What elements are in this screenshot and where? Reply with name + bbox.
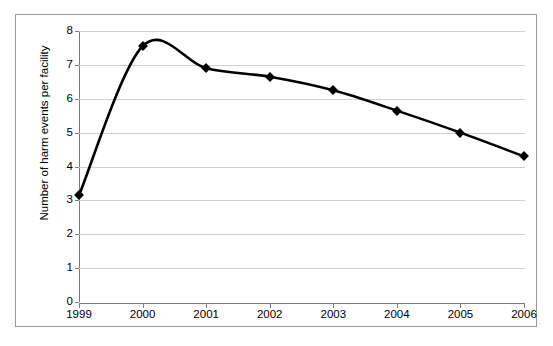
y-tick-label: 6 (33, 93, 73, 105)
y-tick-label: 0 (33, 296, 73, 308)
y-tick-label: 2 (33, 228, 73, 240)
plot-area: 012345678 199920002001200220032004200520… (79, 31, 525, 304)
y-tick-label: 3 (33, 194, 73, 206)
x-tick-label: 2001 (176, 309, 236, 321)
y-tick-label: 5 (33, 127, 73, 139)
series-path-line (79, 40, 524, 195)
chart-container: Number of harm events per facility 01234… (15, 14, 537, 327)
x-tick-label: 2006 (494, 309, 553, 321)
x-tick-label: 2003 (303, 309, 363, 321)
y-tick-label: 1 (33, 262, 73, 274)
y-tick-label: 7 (33, 59, 73, 71)
series-line (79, 31, 525, 304)
x-tick-label: 2005 (430, 309, 490, 321)
y-tick-label: 4 (33, 161, 73, 173)
x-tick-label: 2004 (367, 309, 427, 321)
y-tick-label: 8 (33, 25, 73, 37)
x-tick-label: 2002 (240, 309, 300, 321)
x-tick-label: 1999 (49, 309, 109, 321)
x-tick-label: 2000 (113, 309, 173, 321)
